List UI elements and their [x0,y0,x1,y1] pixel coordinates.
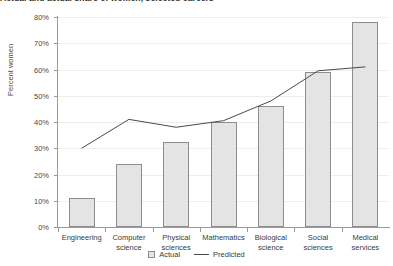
x-label-engineering: Engineering [58,233,105,243]
x-tick-mark [247,228,248,232]
x-tick-mark [105,228,106,232]
legend-item-predicted: Predicted [194,250,245,259]
x-tick-mark [200,228,201,232]
y-tick-label: 10% [23,197,49,206]
legend-item-actual: Actual [148,250,180,259]
plot-area: 0%10%20%30%40%50%60%70%80% [58,17,389,227]
x-axis-line [57,227,390,228]
chart-legend: Actual Predicted [0,250,393,259]
y-tick-label: 60% [23,66,49,75]
x-tick-mark [294,228,295,232]
predicted-polyline [82,67,366,148]
x-tick-mark [153,228,154,232]
y-tick-label: 20% [23,171,49,180]
legend-swatch-predicted-icon [194,254,209,255]
y-tick-label: 30% [23,144,49,153]
y-tick-label: 40% [23,118,49,127]
chart-title: Actual and actual share of women, select… [0,0,393,5]
legend-swatch-actual-icon [148,251,155,258]
x-tick-mark [342,228,343,232]
x-label-mathematics: Mathematics [200,233,247,243]
x-tick-mark [58,228,59,232]
predicted-line-series [58,17,389,227]
y-axis-title: Percent women [6,44,15,96]
legend-label-predicted: Predicted [213,250,245,259]
y-tick-label: 70% [23,39,49,48]
y-tick-label: 0% [23,223,49,232]
y-tick-label: 50% [23,92,49,101]
legend-label-actual: Actual [159,250,180,259]
y-tick-label: 80% [23,13,49,22]
